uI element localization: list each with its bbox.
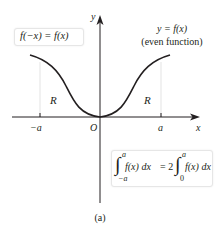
figure-caption: (a) bbox=[94, 212, 105, 224]
integral-property-box: ∫ a −a f(x) dx = 2 ∫ a 0 f(x) dx bbox=[111, 150, 213, 187]
symmetry-property-box: f(−x) = f(x) bbox=[14, 28, 84, 46]
x-axis-label: x bbox=[195, 122, 201, 133]
integral-sign-right: ∫ bbox=[175, 153, 180, 176]
symmetry-equation: f(−x) = f(x) bbox=[20, 30, 69, 41]
curve-label-description: (even function) bbox=[141, 36, 202, 48]
lhs-lower-limit: −a bbox=[118, 174, 127, 183]
rhs-lower-limit: 0 bbox=[180, 174, 184, 183]
lhs-upper-limit: a bbox=[122, 150, 126, 159]
y-axis-label: y bbox=[90, 11, 96, 22]
integral-sign-left: ∫ bbox=[115, 153, 120, 176]
tick-label-pos-a: a bbox=[158, 122, 163, 133]
lhs-integrand: f(x) dx bbox=[125, 161, 151, 172]
origin-label: O bbox=[90, 122, 97, 133]
rhs-upper-limit: a bbox=[182, 150, 186, 159]
region-right-label: R bbox=[143, 94, 151, 106]
rhs-integrand: f(x) dx bbox=[185, 161, 211, 172]
equals-two: = 2 bbox=[160, 161, 173, 172]
region-left-label: R bbox=[49, 94, 57, 106]
curve-label-equation: y = f(x) bbox=[156, 23, 188, 35]
tick-label-neg-a: −a bbox=[30, 122, 42, 133]
